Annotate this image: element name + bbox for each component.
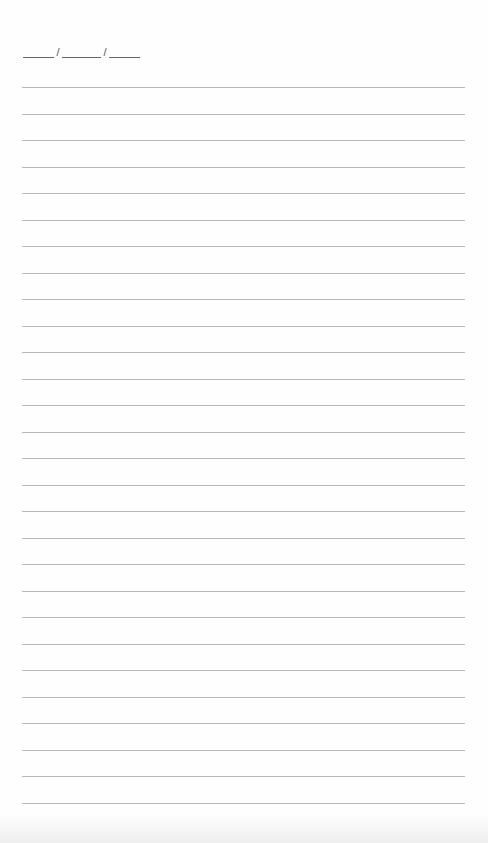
ruled-line[interactable]	[22, 538, 465, 539]
ruled-line[interactable]	[22, 432, 465, 433]
ruled-line[interactable]	[22, 511, 465, 512]
ruled-line[interactable]	[22, 167, 465, 168]
ruled-line[interactable]	[22, 644, 465, 645]
ruled-line[interactable]	[22, 299, 465, 300]
ruled-line[interactable]	[22, 617, 465, 618]
ruled-line[interactable]	[22, 114, 465, 115]
ruled-line[interactable]	[22, 246, 465, 247]
notebook-page: / /	[0, 0, 488, 843]
ruled-line[interactable]	[22, 591, 465, 592]
ruled-lines	[22, 0, 465, 843]
ruled-line[interactable]	[22, 220, 465, 221]
ruled-line[interactable]	[22, 193, 465, 194]
ruled-line[interactable]	[22, 776, 465, 777]
ruled-line[interactable]	[22, 352, 465, 353]
ruled-line[interactable]	[22, 140, 465, 141]
ruled-line[interactable]	[22, 87, 465, 88]
ruled-line[interactable]	[22, 670, 465, 671]
ruled-line[interactable]	[22, 723, 465, 724]
ruled-line[interactable]	[22, 485, 465, 486]
ruled-line[interactable]	[22, 564, 465, 565]
ruled-line[interactable]	[22, 697, 465, 698]
ruled-line[interactable]	[22, 273, 465, 274]
ruled-line[interactable]	[22, 803, 465, 804]
ruled-line[interactable]	[22, 326, 465, 327]
ruled-line[interactable]	[22, 750, 465, 751]
ruled-line[interactable]	[22, 458, 465, 459]
ruled-line[interactable]	[22, 405, 465, 406]
ruled-line[interactable]	[22, 379, 465, 380]
